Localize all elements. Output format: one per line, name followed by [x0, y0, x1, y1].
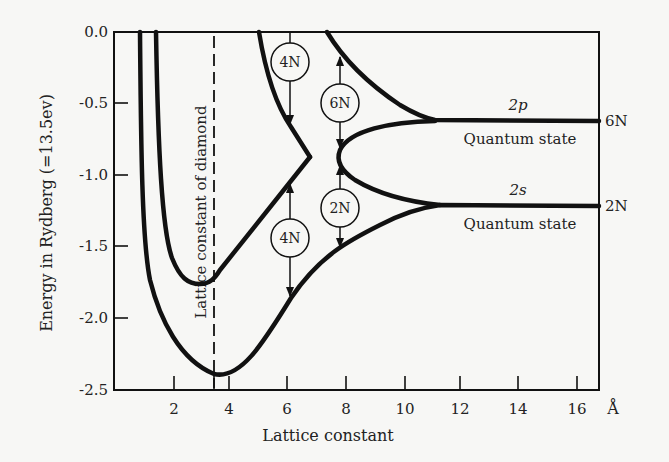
- x-tick-label: 4: [224, 400, 234, 418]
- gap-label-4n-bottom: 4N: [279, 230, 300, 246]
- y-axis-ticks: [114, 103, 128, 318]
- gap-label-2n: 2N: [329, 200, 350, 216]
- energy-band-chart: 0.0 -0.5 -1.0 -1.5 -2.0 -2.5 2 4 6 8 10 …: [0, 0, 669, 462]
- x-tick-label: 10: [395, 400, 414, 418]
- middle-bulge-curve: [339, 121, 440, 205]
- x-tick-label: 6: [282, 400, 292, 418]
- y-tick-label: -2.5: [79, 381, 108, 399]
- level-2s-label: 2s: [508, 181, 527, 199]
- gap-markers: [271, 32, 359, 296]
- x-tick-label: 8: [341, 400, 351, 418]
- y-axis-title: Energy in Rydberg (=13.5ev): [37, 94, 56, 332]
- y-tick-label: -1.0: [79, 166, 108, 184]
- y-tick-label: -0.5: [79, 94, 108, 112]
- x-unit-label: Å: [606, 398, 619, 418]
- y-tick-label: -1.5: [79, 237, 108, 255]
- y-axis-tick-labels: 0.0 -0.5 -1.0 -1.5 -2.0 -2.5: [79, 23, 108, 399]
- gap-label-4n-top: 4N: [279, 54, 300, 70]
- quantum-state-upper-label: Quantum state: [464, 130, 577, 148]
- x-tick-label: 14: [508, 400, 527, 418]
- x-axis-ticks: [174, 376, 577, 390]
- x-tick-label: 12: [450, 400, 469, 418]
- x-axis-tick-labels: 2 4 6 8 10 12 14 16 Å: [169, 398, 619, 418]
- x-tick-label: 16: [567, 400, 586, 418]
- degeneracy-6n-label: 6N: [605, 112, 628, 130]
- x-tick-label: 2: [169, 400, 179, 418]
- x-axis-title: Lattice constant: [262, 426, 394, 445]
- degeneracy-2n-label: 2N: [605, 197, 628, 215]
- diamond-lattice-label: Lattice constant of diamond: [192, 105, 210, 319]
- gap-label-6n: 6N: [329, 95, 350, 111]
- outer-upper-band-curve: [327, 32, 599, 121]
- y-tick-label: -2.0: [79, 309, 108, 327]
- level-2p-label: 2p: [507, 96, 528, 114]
- y-tick-label: 0.0: [84, 23, 108, 41]
- quantum-state-lower-label: Quantum state: [464, 215, 577, 233]
